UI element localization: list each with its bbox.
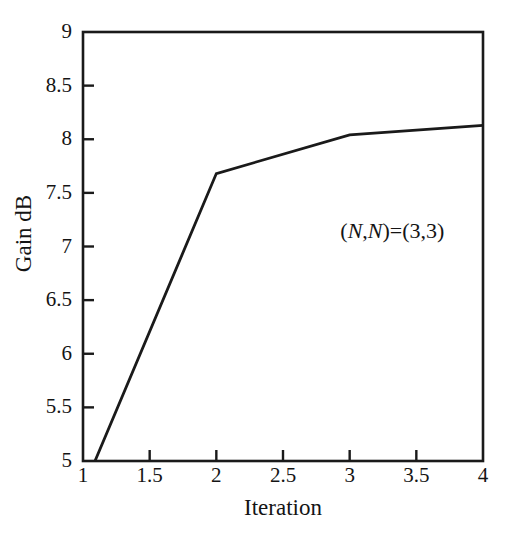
y-tick-label-9: 9 xyxy=(62,21,73,42)
y-tick-label-5.5: 5.5 xyxy=(46,396,72,417)
chart-figure: 55.566.577.588.59 11.522.533.54 Gain dB … xyxy=(0,0,509,541)
annotation-text: )=(3,3) xyxy=(383,218,445,243)
series-annotation-label: (N,N)=(3,3) xyxy=(340,220,444,242)
x-axis-title: Iteration xyxy=(83,496,483,519)
annotation-variable: N xyxy=(348,218,363,243)
y-tick-label-6: 6 xyxy=(62,343,73,364)
line-chart-plot-area xyxy=(0,0,509,541)
plot-frame-box xyxy=(83,32,483,461)
x-tick-label-4: 4 xyxy=(443,465,509,486)
annotation-variable: N xyxy=(368,218,383,243)
y-tick-label-7: 7 xyxy=(62,236,73,257)
y-tick-label-8: 8 xyxy=(62,128,73,149)
y-axis-title: Gain dB xyxy=(12,164,35,304)
y-tick-label-8.5: 8.5 xyxy=(46,75,72,96)
y-tick-label-6.5: 6.5 xyxy=(46,289,72,310)
y-tick-label-7.5: 7.5 xyxy=(46,182,72,203)
annotation-text: ( xyxy=(340,218,347,243)
